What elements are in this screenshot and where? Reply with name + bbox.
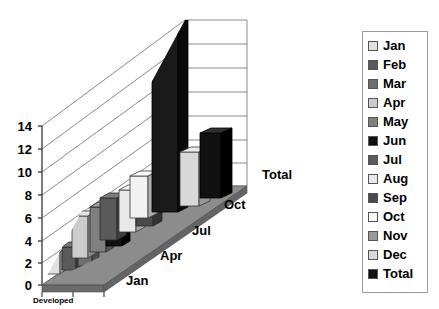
y-tick-10: 10 [4, 166, 32, 179]
legend-label: Mar [383, 77, 406, 90]
depth-label-total: Total [262, 168, 292, 181]
depth-label-oct: Oct [224, 198, 246, 211]
legend-label: Jun [383, 134, 406, 147]
legend-swatch-icon [368, 250, 378, 260]
legend-item-jun[interactable]: Jun [368, 131, 427, 150]
y-tick-0: 0 [4, 279, 32, 292]
legend-label: Aug [383, 172, 408, 185]
legend-item-aug[interactable]: Aug [368, 169, 427, 188]
legend-swatch-icon [368, 231, 378, 241]
legend-label: Sep [383, 191, 407, 204]
y-tick-4: 4 [4, 235, 32, 248]
legend-item-may[interactable]: May [368, 112, 427, 131]
legend-item-jul[interactable]: Jul [368, 150, 427, 169]
y-tick-6: 6 [4, 212, 32, 225]
legend-swatch-icon [368, 155, 378, 165]
legend-item-mar[interactable]: Mar [368, 74, 427, 93]
depth-label-jan: Jan [126, 274, 148, 287]
legend-label: Feb [383, 58, 406, 71]
legend-swatch-icon [368, 60, 378, 70]
legend-label: Apr [383, 96, 405, 109]
legend-item-jan[interactable]: Jan [368, 36, 427, 55]
chart-legend: Jan Feb Mar Apr May Jun Jul Aug [362, 31, 428, 293]
legend-swatch-icon [368, 79, 378, 89]
legend-swatch-icon [368, 193, 378, 203]
legend-item-sep[interactable]: Sep [368, 188, 427, 207]
legend-swatch-icon [368, 41, 378, 51]
legend-swatch-icon [368, 212, 378, 222]
legend-label: Total [383, 267, 413, 280]
y-tick-2: 2 [4, 257, 32, 270]
legend-label: Jul [383, 153, 402, 166]
legend-label: Jan [383, 39, 405, 52]
legend-swatch-icon [368, 98, 378, 108]
legend-swatch-icon [368, 136, 378, 146]
y-axis [38, 126, 42, 285]
chart-plot-area: 14 12 10 8 6 4 2 0 Total Oct Jul Apr Jan… [0, 0, 350, 309]
legend-item-feb[interactable]: Feb [368, 55, 427, 74]
legend-item-oct[interactable]: Oct [368, 207, 427, 226]
legend-swatch-icon [368, 117, 378, 127]
legend-item-dec[interactable]: Dec [368, 245, 427, 264]
legend-item-total[interactable]: Total [368, 264, 427, 283]
y-tick-12: 12 [4, 143, 32, 156]
chart-root: 14 12 10 8 6 4 2 0 Total Oct Jul Apr Jan… [0, 0, 439, 309]
legend-item-apr[interactable]: Apr [368, 93, 427, 112]
category-label-developed: Developed [33, 296, 73, 305]
legend-swatch-icon [368, 174, 378, 184]
legend-label: May [383, 115, 408, 128]
legend-item-nov[interactable]: Nov [368, 226, 427, 245]
y-tick-14: 14 [4, 120, 32, 133]
legend-label: Dec [383, 248, 407, 261]
depth-label-apr: Apr [160, 249, 182, 262]
legend-label: Nov [383, 229, 408, 242]
bar-total [200, 128, 232, 198]
depth-label-jul: Jul [192, 224, 211, 237]
y-tick-8: 8 [4, 189, 32, 202]
legend-swatch-icon [368, 269, 378, 279]
legend-label: Oct [383, 210, 405, 223]
